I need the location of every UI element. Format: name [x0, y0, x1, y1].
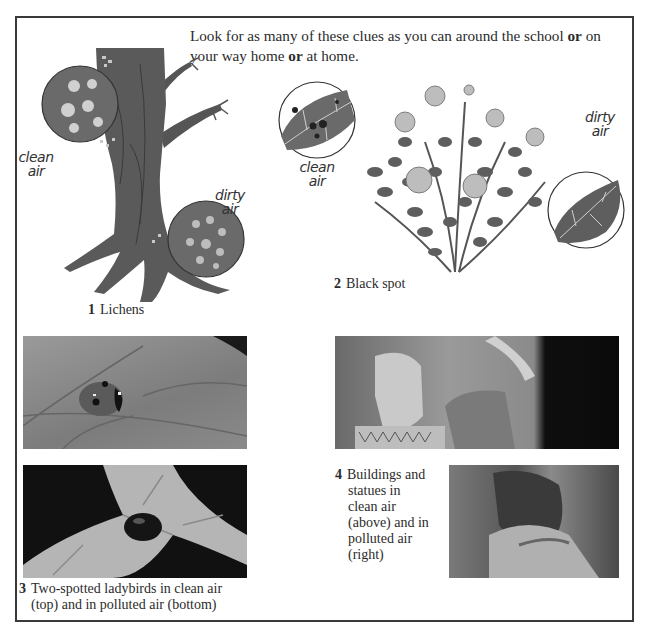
black-spot-clean-leaf-magnifier	[277, 80, 357, 160]
intro-bold-or-1: or	[567, 27, 581, 44]
tree-with-lichens-illustration	[40, 44, 250, 304]
caption-text: Buildings and	[347, 467, 425, 482]
figure-number: 2	[334, 276, 341, 291]
statue-polluted-air-photo	[449, 465, 619, 578]
intro-text: Look for as many of these clues as you c…	[190, 26, 630, 66]
figure-1-caption: 1Lichens	[88, 302, 144, 318]
black-spot-clean-air-label: clean air	[292, 160, 342, 188]
figure-4-caption: 4Buildings and statues in clean air (abo…	[335, 467, 445, 563]
caption-text: Black spot	[346, 276, 406, 291]
caption-line: (above) and in	[335, 515, 445, 531]
figure-number: 1	[88, 302, 95, 317]
lichens-dirty-air-label: dirty air	[208, 188, 252, 216]
caption-line: clean air	[335, 499, 445, 515]
figure-number: 3	[19, 581, 26, 596]
label-line: air	[208, 202, 252, 216]
caption-line-1: 4Buildings and	[335, 467, 445, 483]
label-line: clean	[16, 150, 56, 164]
label-line: air	[578, 124, 622, 138]
figure-number: 4	[335, 467, 342, 482]
label-line: dirty	[208, 188, 252, 202]
statue-clean-air-photo	[335, 336, 619, 449]
caption-text: Two-spotted ladybirds in clean air	[31, 581, 222, 596]
ladybird-polluted-air-photo	[23, 465, 247, 578]
intro-part1: Look for as many of these clues as you c…	[190, 27, 567, 44]
black-spot-dirty-leaf-magnifier	[546, 170, 626, 250]
intro-bold-or-2: or	[288, 47, 302, 64]
label-line: air	[16, 164, 56, 178]
intro-part3: at home.	[303, 47, 359, 64]
rose-bush-illustration	[355, 82, 555, 274]
caption-text: Lichens	[100, 302, 144, 317]
figure-3-caption: 3Two-spotted ladybirds in clean air (top…	[19, 581, 222, 613]
caption-line: statues in	[335, 483, 445, 499]
caption-line: (right)	[335, 547, 445, 563]
caption-line-2: (top) and in polluted air (bottom)	[19, 597, 222, 613]
label-line: dirty	[578, 110, 622, 124]
lichens-clean-air-label: clean air	[16, 150, 56, 178]
figure-2-caption: 2Black spot	[334, 276, 406, 292]
label-line: air	[292, 174, 342, 188]
ladybird-clean-air-photo	[23, 336, 247, 449]
caption-line-1: 3Two-spotted ladybirds in clean air	[19, 581, 222, 597]
label-line: clean	[292, 160, 342, 174]
black-spot-dirty-air-label: dirty air	[578, 110, 622, 138]
caption-line: polluted air	[335, 531, 445, 547]
